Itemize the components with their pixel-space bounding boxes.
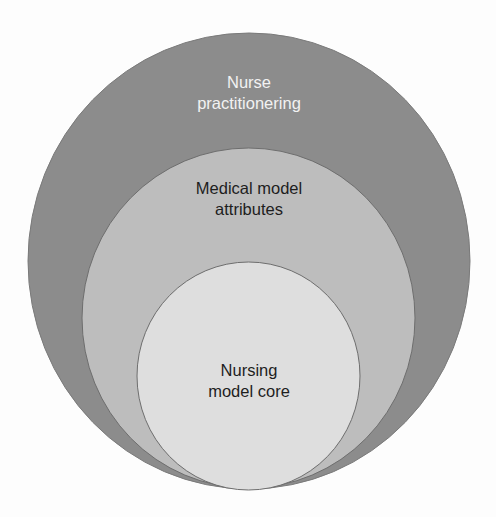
inner-label-line-1: Nursing xyxy=(149,360,349,381)
outer-circle-label: Nurse practitionering xyxy=(149,72,349,114)
middle-label-line-1: Medical model xyxy=(149,178,349,199)
middle-label-line-2: attributes xyxy=(149,199,349,220)
inner-circle-label: Nursing model core xyxy=(149,360,349,402)
inner-label-line-2: model core xyxy=(149,381,349,402)
middle-circle-label: Medical model attributes xyxy=(149,178,349,220)
outer-label-line-1: Nurse xyxy=(149,72,349,93)
outer-label-line-2: practitionering xyxy=(149,93,349,114)
